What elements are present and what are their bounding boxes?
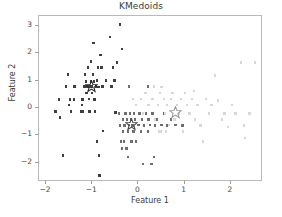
data-point-cluster_1 bbox=[123, 140, 125, 142]
x-tick bbox=[91, 181, 92, 184]
data-point-cluster_0 bbox=[116, 61, 118, 63]
data-point-cluster_2 bbox=[240, 61, 242, 63]
data-point-cluster_2 bbox=[221, 118, 223, 120]
data-point-cluster_1 bbox=[121, 147, 123, 149]
y-tick bbox=[35, 162, 38, 163]
y-tick-label: −2 bbox=[12, 157, 32, 167]
data-point-cluster_2 bbox=[180, 98, 182, 100]
data-point-cluster_2 bbox=[163, 98, 165, 100]
data-point-cluster_0 bbox=[68, 104, 70, 106]
y-tick bbox=[35, 25, 38, 26]
data-point-cluster_1 bbox=[147, 118, 149, 120]
matplotlib-figure: KMedoids −2−1012−2−10123 Feature 1 Featu… bbox=[0, 0, 282, 217]
x-axis-label: Feature 1 bbox=[38, 196, 262, 205]
data-point-cluster_2 bbox=[140, 98, 142, 100]
data-point-cluster_2 bbox=[153, 85, 155, 87]
data-point-cluster_0 bbox=[110, 85, 112, 87]
data-point-cluster_0 bbox=[58, 98, 60, 100]
data-point-cluster_2 bbox=[202, 140, 204, 142]
data-point-cluster_2 bbox=[193, 90, 195, 92]
data-point-cluster_2 bbox=[196, 104, 198, 106]
data-point-cluster_0 bbox=[98, 174, 100, 176]
data-point-cluster_2 bbox=[158, 130, 160, 132]
data-point-cluster_1 bbox=[181, 124, 183, 126]
data-point-cluster_2 bbox=[165, 130, 167, 132]
data-point-cluster_0 bbox=[59, 116, 61, 118]
data-point-cluster_2 bbox=[210, 104, 212, 106]
data-point-cluster_2 bbox=[231, 104, 233, 106]
data-point-cluster_0 bbox=[92, 42, 94, 44]
data-point-cluster_0 bbox=[70, 110, 72, 112]
data-point-cluster_1 bbox=[128, 85, 130, 87]
data-point-cluster_0 bbox=[93, 98, 95, 100]
data-point-cluster_1 bbox=[141, 118, 143, 120]
data-point-cluster_0 bbox=[109, 36, 111, 38]
page-title: KMedoids bbox=[0, 1, 282, 11]
x-tick bbox=[230, 181, 231, 184]
data-point-cluster_2 bbox=[188, 112, 190, 114]
y-tick bbox=[35, 52, 38, 53]
x-tick-label: −2 bbox=[31, 185, 59, 194]
data-point-cluster_1 bbox=[143, 124, 145, 126]
data-point-cluster_2 bbox=[217, 99, 219, 101]
data-point-cluster_0 bbox=[97, 86, 99, 88]
data-point-cluster_1 bbox=[120, 140, 122, 142]
data-point-cluster_1 bbox=[150, 163, 152, 165]
data-point-cluster_2 bbox=[199, 124, 201, 126]
data-point-cluster_0 bbox=[96, 140, 98, 142]
data-point-cluster_1 bbox=[149, 124, 151, 126]
data-point-cluster_0 bbox=[88, 98, 90, 100]
data-point-cluster_0 bbox=[73, 98, 75, 100]
data-point-cluster_2 bbox=[254, 61, 256, 63]
data-point-cluster_2 bbox=[214, 74, 216, 76]
data-point-cluster_2 bbox=[191, 98, 193, 100]
data-point-cluster_2 bbox=[248, 112, 250, 114]
x-tick-label: −1 bbox=[77, 185, 105, 194]
data-point-cluster_2 bbox=[157, 104, 159, 106]
data-point-cluster_0 bbox=[97, 66, 99, 68]
data-point-cluster_0 bbox=[113, 79, 115, 81]
y-tick bbox=[35, 80, 38, 81]
data-point-cluster_1 bbox=[137, 124, 139, 126]
data-point-cluster_1 bbox=[154, 124, 156, 126]
plot-area bbox=[38, 15, 262, 181]
data-point-cluster_0 bbox=[98, 154, 100, 156]
data-point-cluster_0 bbox=[102, 130, 104, 132]
data-point-cluster_1 bbox=[133, 112, 135, 114]
y-tick-label: 3 bbox=[12, 20, 32, 30]
y-tick bbox=[35, 134, 38, 135]
data-point-cluster_2 bbox=[171, 92, 173, 94]
centroid_1 bbox=[125, 118, 138, 131]
data-point-cluster_0 bbox=[54, 110, 56, 112]
data-point-cluster_2 bbox=[243, 124, 245, 126]
data-point-cluster_2 bbox=[170, 98, 172, 100]
data-point-cluster_0 bbox=[81, 104, 83, 106]
data-point-cluster_0 bbox=[88, 110, 90, 112]
data-point-cluster_2 bbox=[244, 137, 246, 139]
data-point-cluster_2 bbox=[186, 104, 188, 106]
data-point-cluster_2 bbox=[151, 98, 153, 100]
data-point-cluster_2 bbox=[223, 112, 225, 114]
data-point-cluster_0 bbox=[62, 154, 64, 156]
data-point-cluster_1 bbox=[118, 112, 120, 114]
data-point-cluster_0 bbox=[94, 110, 96, 112]
data-point-cluster_1 bbox=[145, 112, 147, 114]
data-point-cluster_2 bbox=[208, 112, 210, 114]
data-point-cluster_0 bbox=[81, 98, 83, 100]
data-point-cluster_1 bbox=[147, 130, 149, 132]
data-point-cluster_2 bbox=[168, 124, 170, 126]
data-point-cluster_0 bbox=[105, 79, 107, 81]
data-point-cluster_1 bbox=[130, 140, 132, 142]
data-point-cluster_0 bbox=[114, 111, 116, 113]
data-point-cluster_0 bbox=[100, 66, 102, 68]
data-point-cluster_0 bbox=[65, 85, 67, 87]
data-point-cluster_0 bbox=[121, 48, 123, 50]
data-point-cluster_0 bbox=[99, 54, 101, 56]
data-point-cluster_1 bbox=[151, 112, 153, 114]
data-point-cluster_1 bbox=[125, 147, 127, 149]
data-point-cluster_0 bbox=[119, 23, 121, 25]
data-point-cluster_0 bbox=[101, 85, 103, 87]
x-tick-label: 2 bbox=[216, 185, 244, 194]
centroid_0 bbox=[85, 80, 98, 93]
data-point-cluster_2 bbox=[164, 112, 166, 114]
